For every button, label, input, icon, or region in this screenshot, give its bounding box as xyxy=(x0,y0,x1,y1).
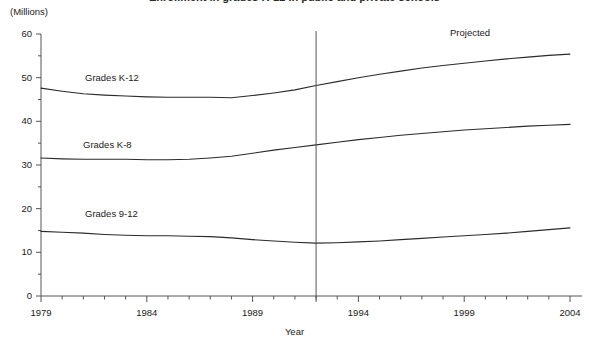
x-axis-tick-label: 1989 xyxy=(233,308,273,318)
y-axis-tick-label: 10 xyxy=(10,247,32,257)
y-axis-tick-label: 50 xyxy=(10,73,32,83)
x-axis-title: Year xyxy=(0,326,589,337)
y-axis-tick-label: 0 xyxy=(10,291,32,301)
series-label-grades-k-12: Grades K-12 xyxy=(85,72,139,83)
y-axis-tick-label: 20 xyxy=(10,204,32,214)
chart-title: Enrollment in grades K-12 in public and … xyxy=(0,0,589,3)
series-label-grades-k-8: Grades K-8 xyxy=(83,139,132,150)
series-label-grades-9-12: Grades 9-12 xyxy=(85,208,138,219)
x-axis-tick-label: 2004 xyxy=(550,308,589,318)
x-axis-tick-label: 1999 xyxy=(444,308,484,318)
plot-area xyxy=(0,0,589,343)
enrollment-line-chart: Enrollment in grades K-12 in public and … xyxy=(0,0,589,343)
x-axis-tick-label: 1984 xyxy=(127,308,167,318)
y-axis-unit-label: (Millions) xyxy=(10,6,48,17)
y-axis-tick-label: 30 xyxy=(10,160,32,170)
y-axis-tick-label: 40 xyxy=(10,116,32,126)
series-line-grades-9-12 xyxy=(41,228,570,243)
projected-annotation-label: Projected xyxy=(450,27,490,38)
y-axis-tick-label: 60 xyxy=(10,29,32,39)
x-axis-tick-label: 1979 xyxy=(21,308,61,318)
x-axis-tick-label: 1994 xyxy=(338,308,378,318)
